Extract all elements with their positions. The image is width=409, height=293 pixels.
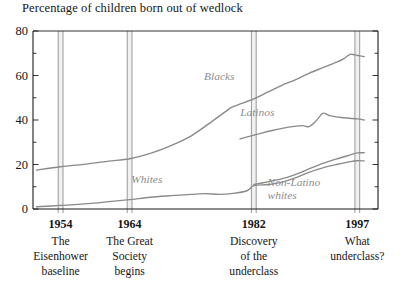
- x-axis-caption-1964: begins: [114, 265, 145, 278]
- x-axis-caption-1954: The: [52, 235, 70, 248]
- x-axis-caption-1954: baseline: [42, 265, 80, 278]
- x-axis-year-1954: 1954: [49, 217, 73, 231]
- series-labels: BlacksLatinosWhitesNon-Latinowhites: [131, 70, 320, 201]
- series-label-non-latino-whites: Non-Latino: [267, 176, 321, 188]
- y-tick-label-60: 60: [16, 69, 29, 83]
- event-marker-1997: [355, 31, 360, 213]
- axis-group: [33, 31, 378, 209]
- x-axis-caption-1982: Discovery: [230, 235, 278, 248]
- series-label-whites: Whites: [131, 173, 163, 185]
- line-chart-canvas: 020406080 BlacksLatinosWhitesNon-Latinow…: [0, 0, 409, 293]
- y-tick-label-40: 40: [16, 113, 29, 127]
- series-label-non-latino-whites: whites: [268, 189, 298, 201]
- x-axis-caption-1964: The Great: [106, 235, 153, 248]
- y-tick-labels: 020406080: [16, 24, 29, 216]
- y-tick-label-20: 20: [16, 158, 29, 172]
- x-axis-year-1982: 1982: [242, 217, 266, 231]
- chart-figure: Percentage of children born out of wedlo…: [0, 0, 409, 293]
- x-axis-caption-1982: of the: [240, 250, 267, 263]
- y-tick-label-80: 80: [16, 24, 29, 38]
- series-label-latinos: Latinos: [239, 106, 275, 118]
- x-axis-annotations: 1954TheEisenhowerbaseline1964The GreatSo…: [33, 217, 384, 278]
- x-axis-caption-1997: What: [345, 235, 371, 248]
- x-axis-year-1997: 1997: [345, 217, 369, 231]
- x-axis-caption-1997: underclass?: [330, 250, 384, 263]
- series-label-blacks: Blacks: [204, 70, 235, 82]
- x-axis-caption-1982: underclass: [229, 265, 278, 278]
- event-marker-1954: [58, 31, 63, 213]
- x-axis-year-1964: 1964: [118, 217, 142, 231]
- x-axis-caption-1954: Eisenhower: [33, 250, 88, 263]
- event-marker-1964: [127, 31, 132, 213]
- x-axis-caption-1964: Society: [112, 250, 147, 263]
- series-line-blacks: [36, 54, 364, 170]
- y-tick-label-0: 0: [22, 202, 28, 216]
